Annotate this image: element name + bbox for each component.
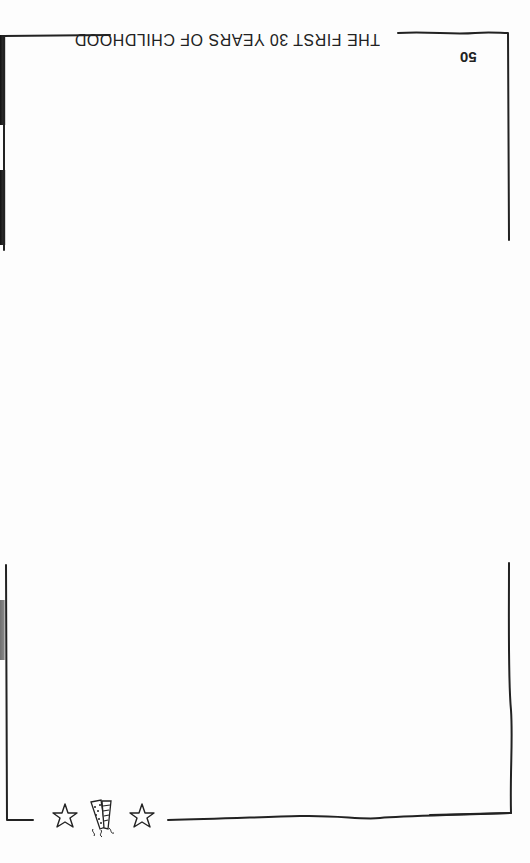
frame-top-right-line [398, 32, 509, 240]
star-icon [52, 803, 78, 829]
page-number: 50 [460, 49, 477, 66]
page-header-title: THE FIRST 30 YEARS OF CHILDHOOD [140, 30, 380, 48]
hand-drawn-frame [0, 0, 530, 863]
book-page: THE FIRST 30 YEARS OF CHILDHOOD 50 [0, 0, 530, 863]
frame-bottom-right-line [168, 813, 511, 820]
frame-right-lower-line [430, 563, 512, 815]
star-icon [129, 803, 155, 829]
frame-left-lower-line [6, 565, 33, 820]
party-horns-icon [88, 799, 120, 839]
